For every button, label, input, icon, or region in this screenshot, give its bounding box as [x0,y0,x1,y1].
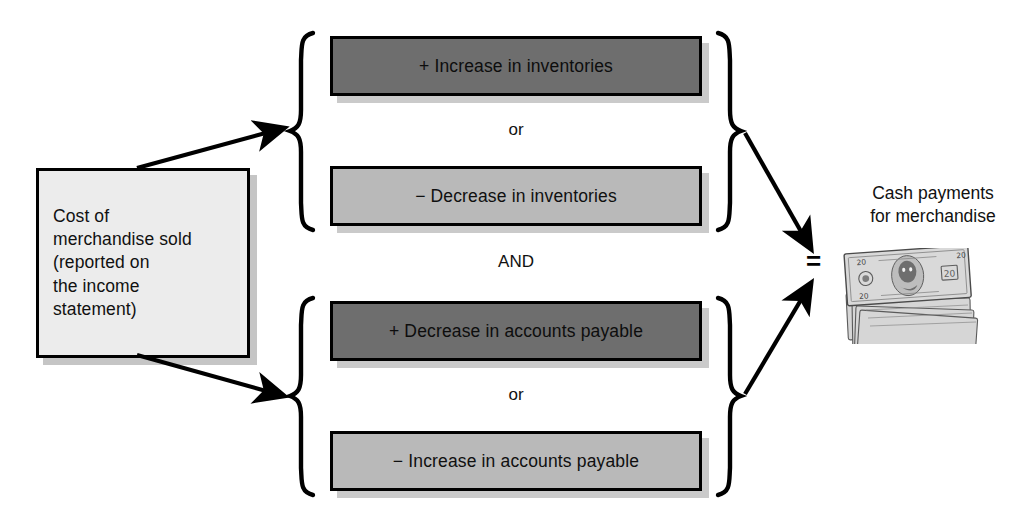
closing-brace-accounts-payable [718,298,741,495]
svg-text:20: 20 [859,291,869,301]
source-box-label: Cost of merchandise sold (reported on th… [39,205,192,321]
arrow-accounts-payable-to-result [745,283,811,394]
arrow-source-to-inventories [137,128,284,168]
source-box-cost-of-merchandise-sold: Cost of merchandise sold (reported on th… [36,168,250,358]
equals-sign: = [806,248,821,274]
diagram-canvas: Cost of merchandise sold (reported on th… [0,0,1030,521]
connector-or-accounts-payable: or [456,385,576,405]
svg-text:20: 20 [856,257,866,267]
result-label-cash-payments: Cash payments for merchandise [838,182,1028,228]
term-box-increase-in-inventories: + Increase in inventories [330,36,702,96]
term-box-label: + Increase in inventories [419,56,613,77]
closing-brace-inventories [718,33,741,230]
svg-text:20: 20 [956,250,966,260]
term-box-decrease-in-accounts-payable: + Decrease in accounts payable [330,301,702,361]
opening-brace-inventories [290,33,313,230]
term-box-label: + Decrease in accounts payable [389,321,643,342]
connector-or-inventories: or [456,120,576,140]
stack-of-banknotes-icon: 20 20 20 20 [836,248,996,344]
arrow-inventories-to-result [745,133,811,249]
opening-brace-accounts-payable [290,298,313,495]
term-box-label: − Increase in accounts payable [393,451,639,472]
connector-and: AND [456,252,576,272]
term-box-increase-in-accounts-payable: − Increase in accounts payable [330,431,702,491]
svg-text:20: 20 [944,268,956,279]
arrow-source-to-accounts-payable [137,355,284,396]
term-box-decrease-in-inventories: − Decrease in inventories [330,166,702,226]
term-box-label: − Decrease in inventories [415,186,617,207]
